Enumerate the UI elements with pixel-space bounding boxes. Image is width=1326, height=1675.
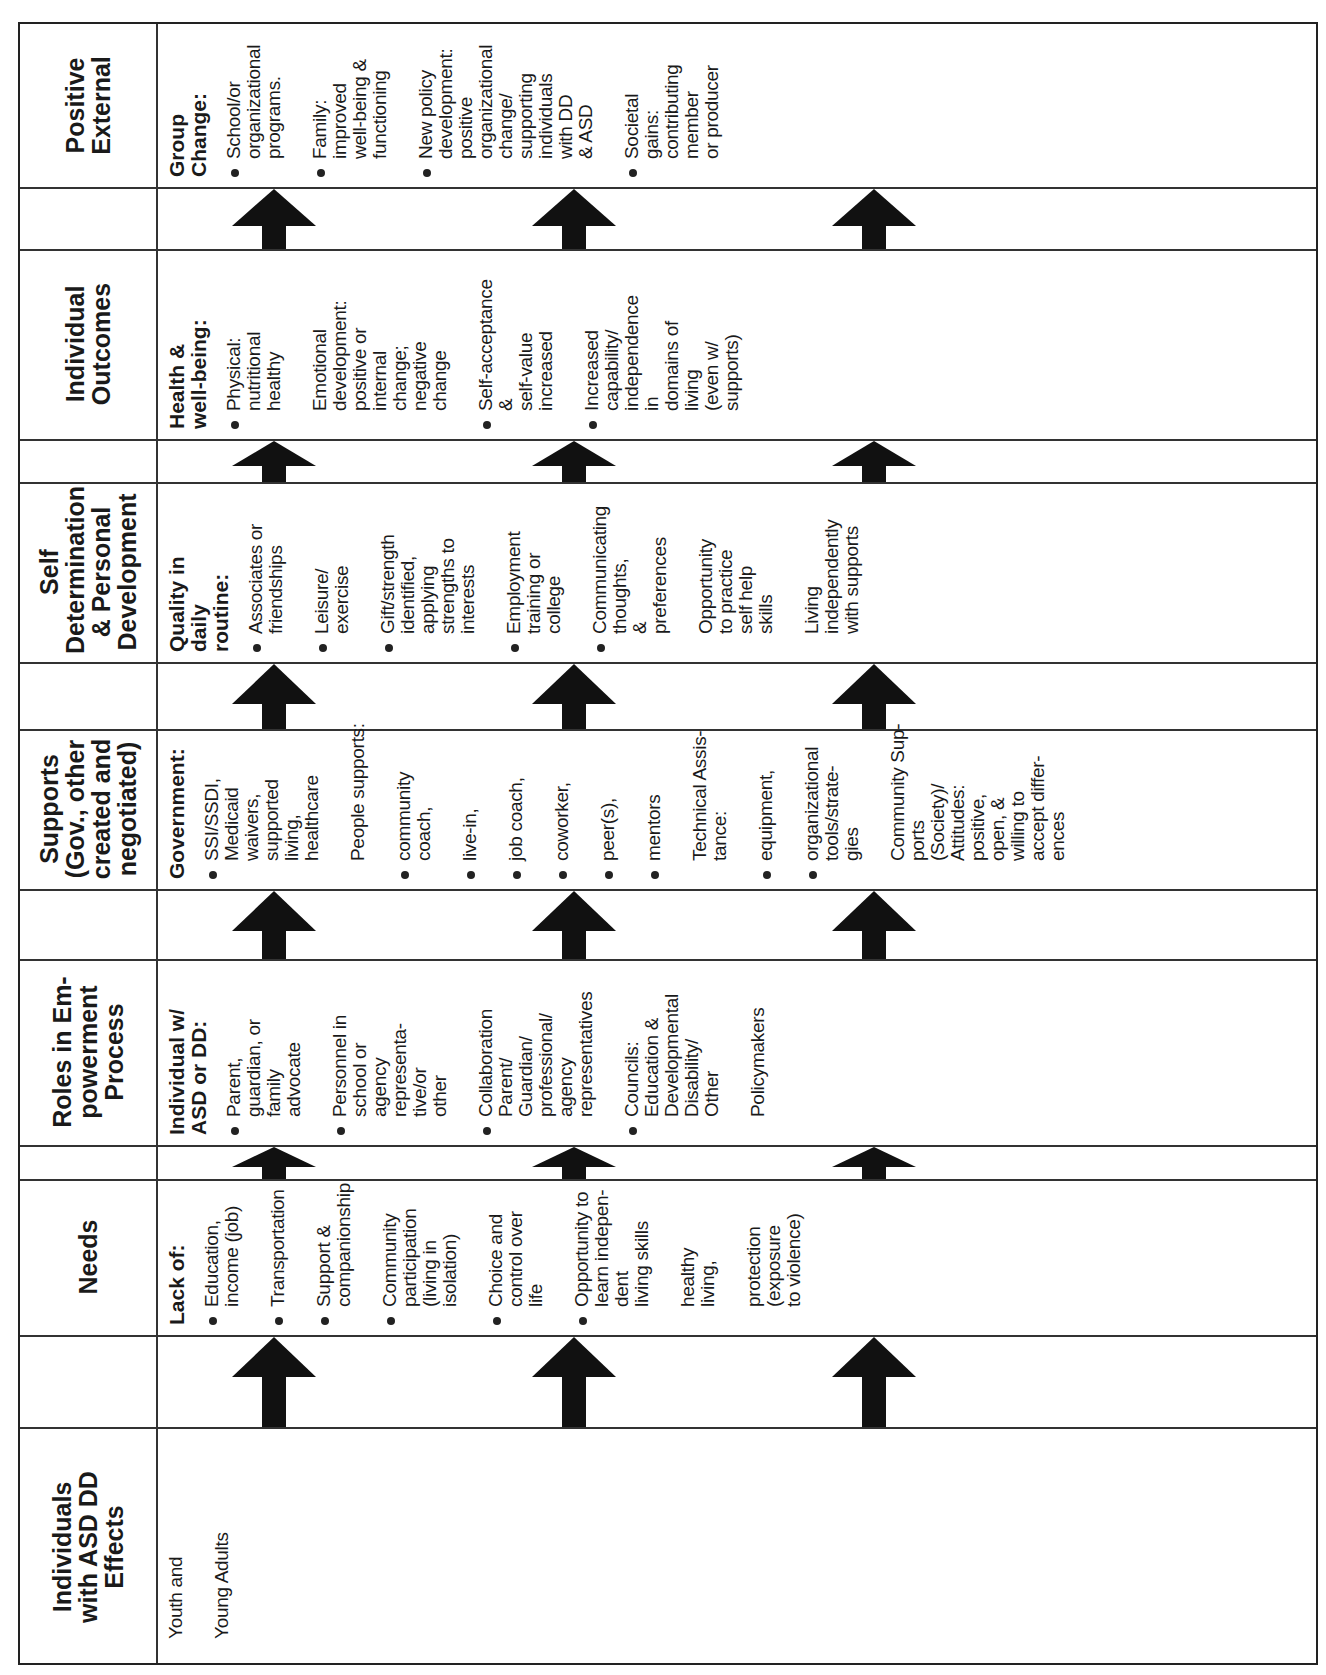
up-arrow-icon [832, 1337, 912, 1429]
item-line: control over [506, 1211, 526, 1325]
item-line: & [630, 506, 650, 652]
row-header-line: Effects [101, 1435, 127, 1659]
item-line: (exposure [764, 1213, 784, 1325]
bullet-icon [209, 1317, 217, 1325]
item-line: family [264, 1019, 284, 1135]
item-line: Communicating [590, 506, 610, 652]
item-line: healthy [678, 1248, 698, 1325]
section-subheading: Government: [166, 748, 188, 879]
item-line: (even w/ [702, 295, 722, 429]
item-line: representa- [390, 1015, 410, 1135]
item-line: Collaboration [476, 992, 496, 1135]
item-line: Community Sup- [888, 724, 908, 879]
item-line: organizational [244, 45, 264, 177]
item-line: contributing [662, 64, 682, 177]
item-line: change/ [496, 45, 516, 177]
bullet-icon [651, 871, 659, 879]
item-line: Opportunity to [572, 1190, 592, 1325]
row-divider [20, 1335, 1316, 1337]
item-line: Emotional [310, 301, 330, 429]
row-header-line: Self [36, 490, 62, 654]
bullet-icon [513, 871, 521, 879]
item-line: or producer [702, 64, 722, 177]
list-item: Physical:nutritionalhealthy [224, 332, 284, 429]
item-line: Parent/ [496, 992, 516, 1135]
bullet-icon [483, 421, 491, 429]
item-line: Personnel in [330, 1015, 350, 1135]
row-header-line: Needs [75, 1187, 101, 1327]
row-header: Supports(Gov., othercreated andnegotiate… [36, 737, 140, 881]
list-item: Increasedcapability/independenceindomain… [582, 295, 742, 429]
subheading-line: daily [188, 556, 210, 652]
item-line: individuals [536, 45, 556, 177]
item-line: open, & [988, 724, 1008, 879]
item-line: Transportation [268, 1189, 288, 1325]
item-line: Increased [582, 295, 602, 429]
row-header-line: Individual [62, 257, 88, 431]
item-line: positive, [968, 724, 988, 879]
item-line: community [394, 772, 414, 879]
item-line: supports) [722, 295, 742, 429]
item-line: interests [458, 534, 478, 652]
item-line: Associates or [246, 524, 266, 652]
item-line: accept differ- [1028, 724, 1048, 879]
item-line: Societal [622, 64, 642, 177]
item-line: willing to [1008, 724, 1028, 879]
list-item: Societalgains:contributingmemberor produ… [622, 64, 722, 177]
item-line: living [682, 295, 702, 429]
up-arrow-icon [832, 891, 912, 961]
list-item: Choice andcontrol overlife [486, 1211, 546, 1325]
item-line: supported [262, 775, 282, 879]
item-line: college [544, 531, 564, 652]
item-line: Leisure/ [312, 566, 332, 652]
item-line: training or [524, 531, 544, 652]
list-item: communitycoach, [394, 772, 434, 879]
row-header-line: Process [101, 967, 127, 1137]
up-arrow-icon [232, 1337, 312, 1429]
bullet-icon [763, 871, 771, 879]
item-line: guardian, or [244, 1019, 264, 1135]
item-line: development: [436, 45, 456, 177]
up-arrow-icon [532, 891, 612, 961]
row-header-line: created and [88, 737, 114, 881]
subheading-line: Group [166, 93, 188, 177]
item-line: Family: [310, 59, 330, 177]
item-line: with supports [842, 520, 862, 652]
row-header: Roles in Em-powermentProcess [49, 967, 127, 1137]
bullet-icon [231, 169, 239, 177]
item-line: supporting [516, 45, 536, 177]
item-line: positive or [350, 301, 370, 429]
row-divider [20, 249, 1316, 251]
item-line: Parent, [224, 1019, 244, 1135]
row-divider [20, 482, 1316, 484]
item-line: positive [456, 45, 476, 177]
bullet-icon [401, 871, 409, 879]
row-header-line: Individuals [49, 1435, 75, 1659]
item-line: self help [736, 539, 756, 652]
row-header-line: Determination [62, 490, 88, 654]
item-line: to practice [716, 539, 736, 652]
column-divider [156, 24, 158, 1663]
item-line: programs. [264, 45, 284, 177]
section-subheading: Lack of: [166, 1244, 188, 1325]
row-header: PositiveExternal [62, 32, 114, 179]
row-divider [20, 1179, 1316, 1181]
subheading-line: Change: [188, 93, 210, 177]
item-line: School/or [224, 45, 244, 177]
up-arrow-icon [532, 441, 612, 484]
item-line: professional/ [536, 992, 556, 1135]
item-line: Young Adults [212, 1532, 232, 1657]
row-header-line: Development [114, 490, 140, 654]
up-arrow-icon [232, 891, 312, 961]
list-item: Opportunity tolearn indepen-dentliving s… [572, 1190, 652, 1325]
list-item: Livingindependentlywith supports [802, 520, 862, 652]
item-line: Physical: [224, 332, 244, 429]
item-line: & [496, 279, 516, 429]
row-divider [20, 729, 1316, 731]
bullet-icon [597, 644, 605, 652]
item-line: Medicaid [222, 775, 242, 879]
item-line: development: [330, 301, 350, 429]
row-header-line: Outcomes [88, 257, 114, 431]
item-line: ports [908, 724, 928, 879]
list-item: equipment, [756, 770, 776, 879]
